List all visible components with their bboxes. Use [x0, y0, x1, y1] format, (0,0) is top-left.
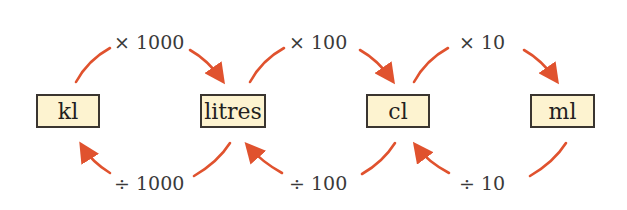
- unit-label-kl: kl: [58, 99, 78, 124]
- unit-box-litres: litres: [200, 94, 266, 128]
- op-label-divide-100: ÷ 100: [289, 173, 347, 193]
- arrow-cl-to-ml-start: [414, 48, 448, 82]
- arrow-cl-to-litres-end: [248, 146, 282, 173]
- arrow-ml-to-cl-end: [416, 146, 449, 173]
- op-label-divide-1000: ÷ 1000: [114, 173, 184, 193]
- arrow-litres-to-cl-start: [250, 48, 284, 82]
- op-label-multiply-10: × 10: [459, 32, 505, 52]
- unit-label-cl: cl: [388, 99, 407, 124]
- unit-label-litres: litres: [204, 99, 262, 124]
- unit-box-ml: ml: [530, 94, 595, 128]
- arrow-litres-to-kl-end: [82, 146, 110, 173]
- arrow-litres-to-kl-start: [194, 143, 230, 176]
- unit-label-ml: ml: [549, 99, 577, 124]
- op-label-multiply-1000: × 1000: [114, 32, 184, 52]
- unit-box-kl: kl: [36, 94, 100, 128]
- op-label-multiply-100: × 100: [289, 32, 347, 52]
- arrow-cl-to-ml-end: [524, 50, 556, 80]
- unit-conversion-diagram: kl litres cl ml × 1000 × 100 × 10 ÷ 1000…: [0, 0, 627, 210]
- arrow-kl-to-litres-start: [76, 48, 110, 82]
- arrow-cl-to-litres-start: [362, 143, 395, 174]
- op-label-divide-10: ÷ 10: [459, 173, 505, 193]
- unit-box-cl: cl: [366, 94, 430, 128]
- arrow-litres-to-cl-end: [360, 50, 392, 80]
- arrow-ml-to-cl-start: [530, 143, 566, 176]
- arrow-kl-to-litres-end: [190, 50, 222, 80]
